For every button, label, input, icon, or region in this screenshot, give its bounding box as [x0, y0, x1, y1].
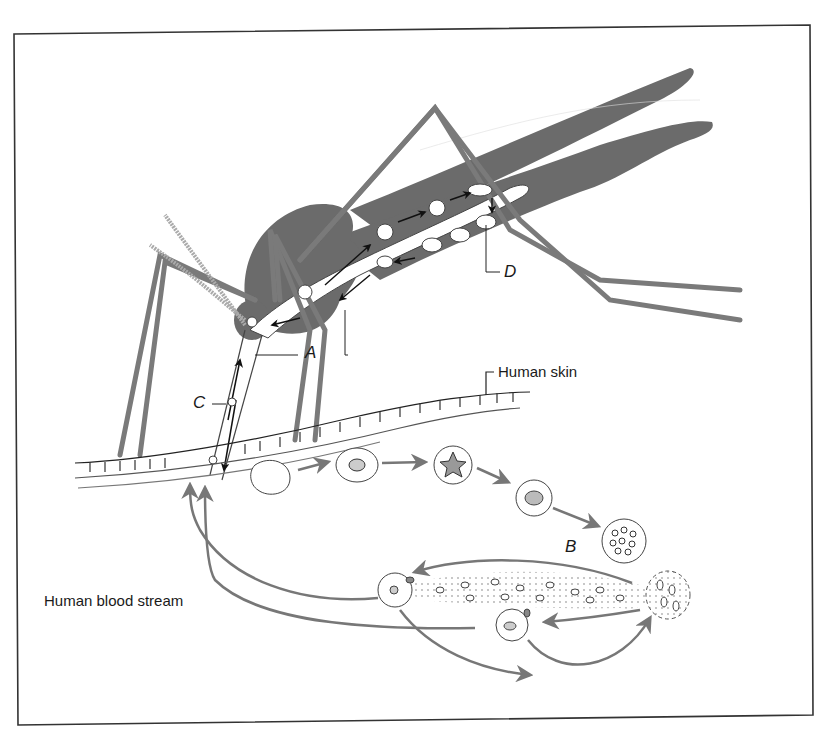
- mosquito-illustration: [120, 68, 740, 480]
- label-a: A: [305, 343, 316, 363]
- label-d: D: [504, 262, 516, 282]
- malaria-life-cycle-diagram: [0, 0, 822, 732]
- label-c: C: [193, 393, 205, 413]
- label-b: B: [565, 537, 576, 557]
- leader-d: [486, 225, 500, 272]
- label-human-skin: Human skin: [498, 363, 577, 380]
- leader-a-2: [345, 310, 348, 355]
- flow-arrow: [190, 462, 650, 675]
- label-human-blood-stream: Human blood stream: [44, 592, 183, 609]
